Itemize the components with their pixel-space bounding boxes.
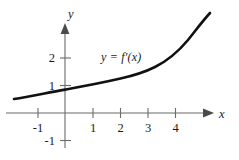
x-tick-label-neg1: -1 xyxy=(33,122,43,135)
y-tick-label-neg1: -1 xyxy=(45,134,55,147)
graph-figure: y x y = f′(x) -1 1 2 3 4 2 1 -1 xyxy=(0,0,239,160)
y-tick-label-2: 2 xyxy=(49,52,55,65)
x-tick-label-4: 4 xyxy=(172,122,178,135)
x-axis-label: x xyxy=(219,108,225,121)
y-axis-arrow-icon xyxy=(61,23,70,34)
x-tick-label-3: 3 xyxy=(145,122,151,135)
x-tick-label-2: 2 xyxy=(117,122,123,135)
plot-canvas xyxy=(0,0,239,160)
x-axis-arrow-icon xyxy=(203,109,214,118)
y-tick-label-1: 1 xyxy=(49,79,55,92)
curve-equation-label: y = f′(x) xyxy=(101,51,142,63)
x-tick-label-1: 1 xyxy=(90,122,96,135)
y-axis-label: y xyxy=(68,8,74,21)
